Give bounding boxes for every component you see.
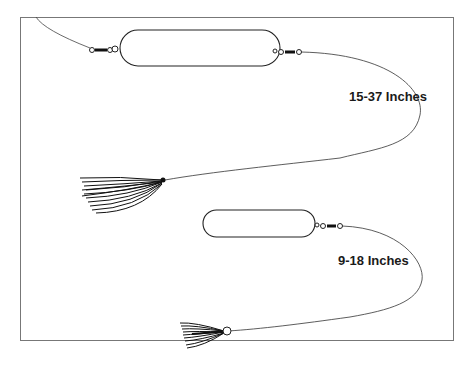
main-line — [36, 17, 90, 48]
leader-line-short — [228, 226, 422, 331]
fly-tassel-small-icon — [180, 323, 231, 348]
short-rig: 9-18 Inches — [180, 210, 422, 348]
short-rig-length-label: 9-18 Inches — [338, 253, 409, 268]
dodger-small — [203, 210, 315, 237]
dodger-large — [120, 30, 280, 66]
long-rig: 15-37 Inches — [36, 17, 427, 213]
fly-tassel-icon — [80, 177, 166, 213]
swivel-small-icon — [315, 223, 343, 229]
leader-line — [165, 52, 420, 180]
long-rig-length-label: 15-37 Inches — [349, 89, 427, 104]
trolling-rig-diagram: 15-37 Inches 9-18 Inches — [0, 0, 474, 369]
